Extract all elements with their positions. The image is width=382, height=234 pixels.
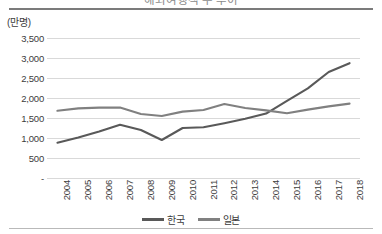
x-axis-tick-label: 2010 <box>187 180 198 214</box>
x-axis-tick-label: 2015 <box>291 180 302 214</box>
x-axis-labels: 2004200520062007200820092010201120122013… <box>47 180 360 214</box>
legend-swatch-icon <box>142 218 164 221</box>
chart-legend: 한국일본 <box>0 213 382 226</box>
legend-entry[interactable]: 일본 <box>198 212 240 227</box>
x-axis-tick-label: 2011 <box>208 180 219 214</box>
gridline <box>47 178 360 179</box>
y-axis-tick-label: - <box>4 173 44 184</box>
x-axis-tick-label: 2004 <box>61 180 72 214</box>
x-axis-tick-label: 2014 <box>270 180 281 214</box>
y-axis-tick-label: 2,500 <box>4 73 44 84</box>
chart-title: 해외여행객 수 추이 <box>0 0 382 7</box>
x-axis-tick-label: 2017 <box>333 180 344 214</box>
x-axis-tick-label: 2007 <box>124 180 135 214</box>
y-axis-tick-label: 3,500 <box>4 33 44 44</box>
legend-label: 한국 <box>167 212 184 227</box>
y-axis-tick-label: 1,500 <box>4 113 44 124</box>
legend-swatch-icon <box>198 218 220 221</box>
x-axis-tick-label: 2006 <box>103 180 114 214</box>
y-axis-tick-label: 3,000 <box>4 53 44 64</box>
x-axis-tick-label: 2008 <box>145 180 156 214</box>
series-lines <box>47 38 360 178</box>
y-axis-tick-label: 2,000 <box>4 93 44 104</box>
legend-entry[interactable]: 한국 <box>142 212 184 227</box>
x-axis-tick-label: 2018 <box>354 180 365 214</box>
y-axis-unit-label: (만명) <box>7 14 31 29</box>
series-line-일본 <box>57 104 349 116</box>
y-axis-tick-label: 500 <box>4 153 44 164</box>
title-divider <box>9 8 373 10</box>
x-axis-tick-label: 2013 <box>249 180 260 214</box>
x-axis-tick-label: 2005 <box>82 180 93 214</box>
y-axis-labels: -5001,0001,5002,0002,5003,0003,500 <box>0 38 44 178</box>
y-axis-tick-label: 1,000 <box>4 133 44 144</box>
chart-screenshot: 해외여행객 수 추이 (만명) -5001,0001,5002,0002,500… <box>0 0 382 234</box>
x-axis-tick-label: 2009 <box>166 180 177 214</box>
x-axis-tick-label: 2016 <box>312 180 323 214</box>
x-axis-tick-label: 2012 <box>228 180 239 214</box>
series-line-한국 <box>57 63 349 143</box>
legend-label: 일본 <box>223 212 240 227</box>
plot-area <box>47 38 360 178</box>
bottom-divider <box>9 228 373 229</box>
